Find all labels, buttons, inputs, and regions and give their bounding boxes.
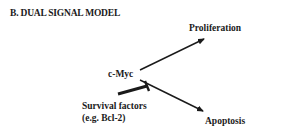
diagram-arrows bbox=[0, 0, 299, 129]
inhibition-bar-icon bbox=[118, 81, 149, 94]
proliferation-arrow-icon bbox=[140, 39, 204, 70]
apoptosis-arrow-icon bbox=[140, 80, 203, 111]
